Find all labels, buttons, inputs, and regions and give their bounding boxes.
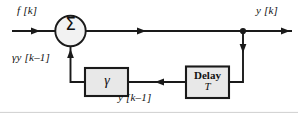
delay-block-title: Delay <box>194 69 221 81</box>
delayed-arrowhead <box>155 79 164 86</box>
delayed-signal-label: y [k–1] <box>118 92 151 103</box>
block-diagram-figure: f [k] y [k] γy [k–1] y [k–1] Σ γ Delay T <box>0 0 298 113</box>
feedback-tap-path <box>229 31 246 82</box>
input-arrowhead <box>31 28 40 35</box>
gain-block-label: γ <box>85 74 129 88</box>
delayed-signal-path <box>128 79 186 86</box>
delay-block-label: Delay T <box>186 70 229 92</box>
branch-down-arrowhead <box>240 44 247 53</box>
delay-block-period: T <box>186 81 229 92</box>
feedback-signal-path <box>67 47 85 83</box>
input-signal-path <box>12 28 55 35</box>
input-signal-label: f [k] <box>17 5 37 16</box>
feedback-signal-label: γy [k–1] <box>12 52 50 63</box>
forward-signal-path <box>86 28 292 35</box>
summing-junction-symbol: Σ <box>55 16 86 33</box>
forward-arrowhead <box>137 28 146 35</box>
output-arrowhead <box>281 28 290 35</box>
feedback-up-arrowhead <box>67 49 74 58</box>
output-signal-label: y [k] <box>256 5 278 16</box>
